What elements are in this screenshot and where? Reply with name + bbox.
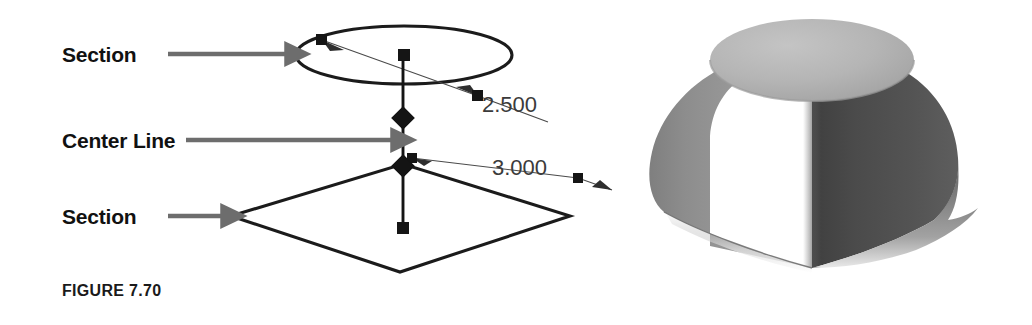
grip-square[interactable] — [398, 49, 410, 61]
grip-diamond[interactable] — [392, 107, 414, 129]
dimension-value-3000[interactable]: 3.000 — [492, 155, 547, 180]
lofted-solid-square-to-circle — [649, 19, 978, 273]
grip-markers[interactable] — [316, 34, 583, 234]
grip-square[interactable] — [573, 173, 583, 183]
grip-square[interactable] — [397, 222, 409, 234]
figure-caption: FIGURE 7.70 — [62, 282, 161, 299]
dimension-value-2500[interactable]: 2.500 — [482, 92, 537, 117]
callout-section-top-label: Section — [62, 43, 136, 66]
callout-section-bottom-label: Section — [62, 205, 136, 228]
edge-leader-arrow-outer — [592, 180, 612, 190]
square-section-profile[interactable] — [231, 164, 570, 272]
callout-center-line[interactable]: Center Line — [62, 129, 392, 152]
square-section-outline[interactable] — [231, 164, 570, 272]
callout-section-bottom[interactable]: Section — [62, 205, 222, 228]
callout-center-line-label: Center Line — [62, 129, 175, 152]
callout-section-top[interactable]: Section — [62, 43, 286, 66]
figure-canvas: Section Center Line Section 2.500 3.000 … — [0, 0, 1032, 325]
figure-7-70-illustration: Section Center Line Section 2.500 3.000 … — [0, 0, 1032, 325]
grip-square[interactable] — [316, 34, 327, 45]
